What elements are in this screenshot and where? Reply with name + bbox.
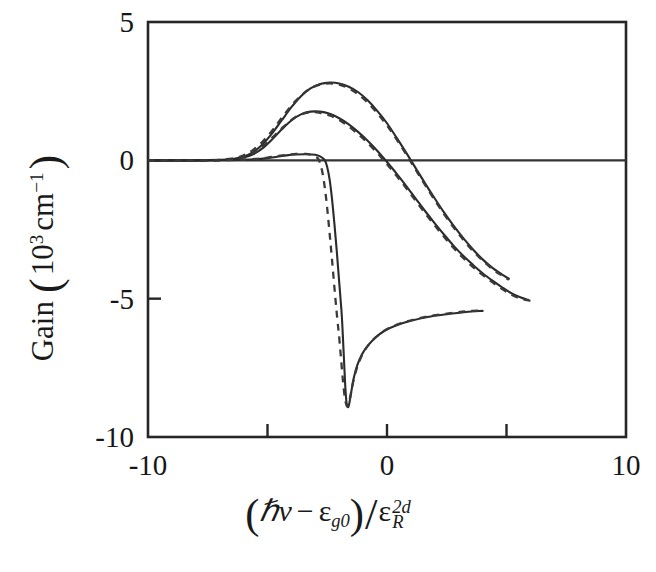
x-title-epsilon-r-group: ε2dR [379,496,411,530]
figure-root: -1001050-5-10 (ℏν−εg0)/ε2dR Gain(103cm−1… [0,0,656,572]
curve-collection [148,83,530,408]
x-title-sub-g0: g0 [331,510,350,531]
plot-frame-border [148,22,626,437]
y-axis-title: Gain(103cm−1) [24,108,68,408]
y-title-exp-minus1: −1 [26,172,47,192]
y-title-open-paren: ( [21,278,70,301]
curve-density-low-solid [148,154,483,407]
x-axis-title: (ℏν−εg0)/ε2dR [0,492,656,537]
axis-ticks [148,160,507,437]
x-title-minus: − [292,494,319,527]
tick-label-collection: -1001050-5-10 [95,6,640,481]
x-title-rd-stack: 2dR [392,498,411,530]
curve-density-low-dashed [148,154,484,406]
x-title-nu: ν [278,494,291,527]
gain-spectra-plot: -1001050-5-10 [0,0,656,572]
x-title-open-paren: ( [245,490,259,537]
y-tick-label-3: -10 [95,421,134,453]
x-title-epsilon-r: ε [379,494,392,527]
y-title-exp3: 3 [26,235,47,245]
x-title-close-paren: ) [350,490,364,537]
x-tick-label-4: 10 [612,449,641,481]
x-tick-label-0: -10 [129,449,168,481]
x-title-slash: / [364,489,379,539]
y-tick-label-0: 5 [120,6,135,38]
y-title-ten: 10 [25,244,60,278]
y-tick-label-1: 0 [120,144,135,176]
y-title-name: Gain [25,301,60,361]
y-title-cm: cm [25,193,60,235]
y-tick-label-2: -5 [110,283,134,315]
x-title-epsilon-g: ε [319,494,332,527]
plot-frame [148,22,626,437]
x-tick-label-2: 0 [380,449,395,481]
x-title-hbar: ℏ [259,494,278,527]
y-title-close-paren: ) [21,155,70,173]
